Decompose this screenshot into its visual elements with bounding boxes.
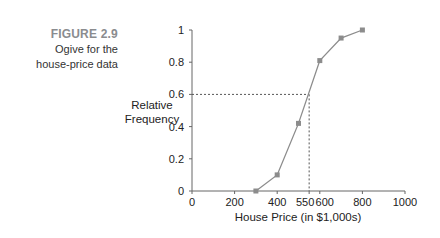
reference-lines: [192, 94, 309, 191]
y-tick-label: 1: [178, 24, 184, 36]
y-axis-title-line1: Relative: [131, 99, 173, 111]
data-point-marker: [339, 36, 344, 41]
x-tick-label: 400: [268, 196, 286, 208]
x-tick-label: 800: [353, 196, 371, 208]
ogive-chart: 00.20.40.60.81 02004005506008001000 Rela…: [0, 0, 440, 238]
data-point-marker: [275, 172, 280, 177]
x-ticks: 02004005506008001000: [189, 191, 417, 208]
data-point-marker: [296, 121, 301, 126]
x-tick-label: 0: [189, 196, 195, 208]
x-tick-label: 200: [225, 196, 243, 208]
x-tick-label: 600: [316, 196, 334, 208]
y-axis-title-line2: Frequency: [125, 113, 180, 125]
data-point-marker: [253, 189, 258, 194]
data-point-marker: [360, 28, 365, 33]
y-tick-label: 0.2: [169, 153, 184, 165]
y-tick-label: 0: [178, 185, 184, 197]
x-tick-label: 550: [296, 196, 314, 208]
data-point-marker: [317, 58, 322, 63]
x-tick-label: 1000: [393, 196, 417, 208]
y-tick-label: 0.8: [169, 56, 184, 68]
x-axis-title: House Price (in $1,000s): [235, 211, 362, 223]
